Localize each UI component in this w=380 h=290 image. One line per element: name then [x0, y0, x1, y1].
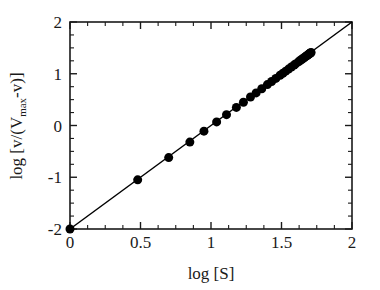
y-tick-label: -1 — [48, 168, 62, 187]
x-axis-tick-labels: 00.511.52 — [66, 233, 357, 252]
chart-canvas: 00.511.52 210-1-2 log [S] log [v/(Vmax-v… — [0, 0, 380, 290]
x-tick-label: 2 — [348, 233, 357, 252]
y-axis-title-prefix: log [v/(V — [7, 116, 26, 180]
x-axis-title: log [S] — [188, 264, 235, 283]
x-tick-label: 0.5 — [130, 233, 151, 252]
y-axis-title-subscript: max — [16, 97, 28, 116]
y-axis-tick-labels: 210-1-2 — [48, 13, 62, 239]
x-tick-label: 1.5 — [271, 233, 292, 252]
hill-plot-figure: 00.511.52 210-1-2 log [S] log [v/(Vmax-v… — [0, 0, 380, 290]
data-point — [307, 48, 316, 57]
data-point — [133, 175, 142, 184]
y-tick-label: 0 — [54, 117, 63, 136]
y-axis-title-suffix: -v)] — [7, 72, 26, 97]
data-point — [185, 138, 194, 147]
data-point — [164, 153, 173, 162]
x-tick-label: 1 — [207, 233, 216, 252]
x-tick-label: 0 — [66, 233, 75, 252]
data-point — [66, 225, 75, 234]
y-tick-label: -2 — [48, 220, 62, 239]
data-point — [222, 110, 231, 119]
y-tick-label: 2 — [54, 13, 63, 32]
data-point — [199, 127, 208, 136]
y-axis-title: log [v/(Vmax-v)] — [7, 72, 28, 179]
y-tick-label: 1 — [54, 65, 63, 84]
data-point — [212, 117, 221, 126]
